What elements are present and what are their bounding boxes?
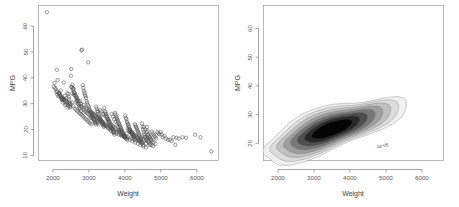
y-tick-label: 60	[22, 22, 29, 29]
contour-panel: 1e-05 20003000400050006000 2030405060 We…	[229, 0, 459, 207]
data-points-group	[45, 11, 213, 154]
data-point	[193, 133, 196, 136]
x-tick-label: 6000	[190, 174, 204, 181]
data-point	[184, 136, 187, 139]
data-point	[70, 67, 73, 70]
data-point	[199, 136, 202, 139]
y-tick-label: 60	[247, 24, 254, 31]
x-tick-label: 2000	[271, 174, 285, 181]
y-axis-title: MPG	[9, 75, 16, 91]
y-axis: 2030405060	[247, 24, 259, 146]
data-point	[53, 81, 56, 84]
x-tick-label: 5000	[154, 174, 168, 181]
y-tick-label: 20	[22, 126, 29, 133]
x-tick-label: 5000	[379, 174, 393, 181]
y-axis: 102030405060	[22, 22, 34, 159]
y-axis-title: MPG	[234, 75, 241, 91]
x-tick-label: 6000	[415, 174, 429, 181]
x-tick-label: 3000	[82, 174, 96, 181]
figure-container: 20003000400050006000 102030405060 Weight…	[0, 0, 459, 207]
y-tick-label: 20	[247, 139, 254, 146]
y-tick-label: 50	[247, 53, 254, 60]
y-tick-label: 50	[22, 48, 29, 55]
data-point	[80, 48, 83, 51]
x-tick-label: 4000	[118, 174, 132, 181]
y-tick-label: 30	[247, 111, 254, 118]
y-tick-label: 30	[22, 100, 29, 107]
data-point	[181, 136, 184, 139]
x-tick-label: 2000	[46, 174, 60, 181]
data-point	[144, 146, 147, 149]
data-point	[124, 114, 127, 117]
x-axis-title: Weight	[342, 190, 364, 198]
data-point	[56, 78, 59, 81]
contour-plot: 1e-05 20003000400050006000 2030405060 We…	[229, 0, 459, 207]
x-tick-label: 4000	[343, 174, 357, 181]
y-tick-label: 40	[247, 82, 254, 89]
density-contours-group	[255, 77, 413, 175]
data-point	[110, 112, 113, 115]
data-point	[86, 61, 89, 64]
data-point	[45, 11, 48, 14]
data-point	[62, 81, 65, 84]
y-tick-label: 40	[22, 74, 29, 81]
data-point	[66, 91, 69, 94]
x-tick-label: 3000	[307, 174, 321, 181]
data-point	[103, 106, 106, 109]
data-point	[69, 74, 72, 77]
scatter-panel: 20003000400050006000 102030405060 Weight…	[0, 0, 230, 207]
data-point	[210, 150, 213, 153]
contour-level-label: 1e-05	[376, 142, 389, 149]
data-point	[125, 132, 128, 135]
y-tick-label: 10	[22, 151, 29, 158]
x-axis: 20003000400050006000	[271, 170, 429, 181]
x-axis: 20003000400050006000	[46, 170, 204, 181]
data-point	[140, 122, 143, 125]
data-point	[55, 68, 58, 71]
scatter-plot: 20003000400050006000 102030405060 Weight…	[0, 0, 230, 207]
x-axis-title: Weight	[117, 190, 139, 198]
data-point	[174, 143, 177, 146]
